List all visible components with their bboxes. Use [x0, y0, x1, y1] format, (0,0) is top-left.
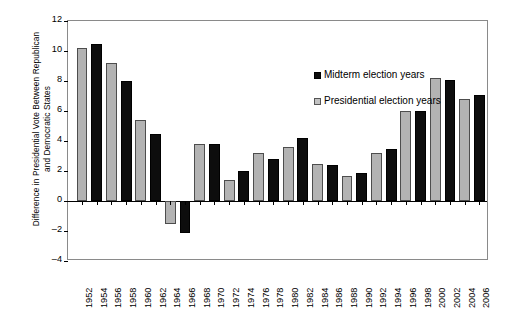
x-axis-tick-label: 1998 — [424, 288, 433, 308]
bar-1960 — [135, 120, 146, 201]
x-axis-tick-mark — [435, 201, 436, 205]
x-axis-tick-label: 1994 — [394, 288, 403, 308]
bar-1952 — [77, 48, 88, 201]
legend: Midterm election yearsPresidential elect… — [314, 65, 441, 117]
x-axis-tick-label: 1992 — [379, 288, 388, 308]
x-axis-tick-label: 2004 — [468, 288, 477, 308]
y-axis-tick-mark — [64, 231, 68, 232]
x-axis-tick-mark — [479, 201, 480, 205]
bar-1984 — [312, 164, 323, 202]
y-axis-tick-label: 0 — [34, 195, 62, 204]
bar-1988 — [342, 176, 353, 202]
x-axis-tick-mark — [421, 201, 422, 205]
legend-item-presidential: Presidential election years — [314, 91, 441, 111]
x-axis-tick-label: 1974 — [247, 288, 256, 308]
bar-1956 — [106, 63, 117, 201]
x-axis-tick-label: 1972 — [232, 288, 241, 308]
x-axis-tick-mark — [303, 201, 304, 205]
x-axis-tick-label: 1980 — [291, 288, 300, 308]
y-axis-tick-label: 10 — [34, 45, 62, 54]
bar-1968 — [194, 144, 205, 201]
x-axis-tick-mark — [185, 201, 186, 205]
bar-1980 — [283, 147, 294, 201]
x-axis-tick-mark — [97, 201, 98, 205]
bar-1970 — [209, 144, 220, 201]
x-axis-tick-mark — [450, 201, 451, 205]
x-axis-tick-mark — [259, 201, 260, 205]
x-axis-tick-mark — [111, 201, 112, 205]
x-axis-tick-label: 1996 — [409, 288, 418, 308]
x-axis-tick-label: 2000 — [438, 288, 447, 308]
bar-1974 — [238, 171, 249, 201]
y-axis-tick-label: –4 — [34, 255, 62, 264]
x-axis-tick-label: 1960 — [144, 288, 153, 308]
x-axis-tick-mark — [229, 201, 230, 205]
x-axis-tick-mark — [376, 201, 377, 205]
x-axis-tick-label: 1978 — [276, 288, 285, 308]
x-axis-tick-mark — [170, 201, 171, 205]
y-axis-tick-mark — [64, 51, 68, 52]
x-axis-tick-mark — [200, 201, 201, 205]
x-axis-tick-mark — [391, 201, 392, 205]
legend-swatch-icon-presidential — [314, 98, 321, 105]
legend-item-midterm: Midterm election years — [314, 65, 441, 85]
y-axis-tick-mark — [64, 81, 68, 82]
x-axis-tick-label: 1962 — [159, 288, 168, 308]
x-axis-tick-label: 1982 — [306, 288, 315, 308]
x-axis-tick-label: 1964 — [173, 288, 182, 308]
x-axis-tick-mark — [347, 201, 348, 205]
x-axis-tick-label: 1954 — [100, 288, 109, 308]
bar-1976 — [253, 153, 264, 201]
y-axis-tick-labels: 121086420–2–4 — [34, 20, 62, 238]
bar-1998 — [415, 111, 426, 201]
x-axis-tick-label: 1988 — [350, 288, 359, 308]
y-axis-tick-label: 8 — [34, 75, 62, 84]
bar-1962 — [150, 134, 161, 202]
x-axis-tick-mark — [273, 201, 274, 205]
x-axis-tick-mark — [156, 201, 157, 205]
bar-1958 — [121, 81, 132, 201]
x-axis-tick-mark — [82, 201, 83, 205]
x-axis-tick-mark — [332, 201, 333, 205]
x-axis-tick-label: 1986 — [335, 288, 344, 308]
x-axis-tick-mark — [214, 201, 215, 205]
bar-1982 — [297, 138, 308, 201]
y-axis-tick-mark — [64, 111, 68, 112]
x-axis-tick-label: 1956 — [114, 288, 123, 308]
x-axis-tick-mark — [288, 201, 289, 205]
bar-chart: Difference in Presidential Vote Between … — [0, 0, 506, 319]
bar-1954 — [91, 44, 102, 202]
x-axis-tick-label: 1952 — [85, 288, 94, 308]
x-axis-tick-mark — [465, 201, 466, 205]
x-axis-tick-label: 1970 — [217, 288, 226, 308]
y-axis-tick-label: 12 — [34, 15, 62, 24]
x-axis-tick-mark — [244, 201, 245, 205]
legend-swatch-icon-midterm — [314, 72, 321, 79]
plot-area: Midterm election yearsPresidential elect… — [67, 20, 488, 260]
x-axis-tick-label: 2002 — [453, 288, 462, 308]
y-axis-tick-label: 2 — [34, 165, 62, 174]
x-axis-tick-label: 1968 — [203, 288, 212, 308]
bar-2006 — [474, 95, 485, 202]
x-axis-tick-label: 1966 — [188, 288, 197, 308]
bar-1994 — [386, 149, 397, 202]
x-axis-tick-label: 2006 — [482, 288, 491, 308]
x-axis-tick-mark — [141, 201, 142, 205]
bars-layer — [68, 21, 487, 259]
y-axis-tick-mark — [64, 21, 68, 22]
bar-1972 — [224, 180, 235, 201]
y-axis-tick-mark — [64, 171, 68, 172]
x-axis-tick-mark — [126, 201, 127, 205]
legend-label: Midterm election years — [324, 70, 425, 80]
x-axis-tick-label: 1990 — [365, 288, 374, 308]
bar-1990 — [356, 173, 367, 202]
bar-1986 — [327, 165, 338, 201]
x-axis-tick-label: 1984 — [321, 288, 330, 308]
x-axis-tick-labels: 1952195419561958196019621964196619681970… — [67, 262, 488, 314]
bar-1992 — [371, 153, 382, 201]
y-axis-tick-mark — [64, 201, 68, 202]
bar-1966 — [180, 201, 191, 233]
bar-1996 — [400, 111, 411, 201]
bar-1978 — [268, 159, 279, 201]
bar-2004 — [459, 99, 470, 201]
